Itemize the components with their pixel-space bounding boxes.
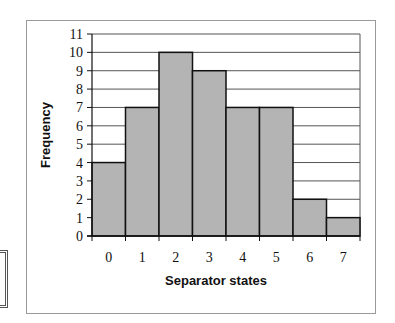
histogram-bar — [126, 107, 160, 236]
x-tick-label: 5 — [273, 250, 280, 265]
x-tick-label: 0 — [105, 250, 112, 265]
y-tick-label: 11 — [70, 27, 83, 42]
y-tick-label: 0 — [76, 229, 83, 244]
y-tick-label: 9 — [76, 64, 83, 79]
x-tick-label: 1 — [139, 250, 146, 265]
y-tick-label: 3 — [76, 174, 83, 189]
x-tick-label: 6 — [306, 250, 313, 265]
x-tick-label: 7 — [340, 250, 347, 265]
histogram-bar — [327, 218, 361, 236]
histogram-bar — [159, 52, 193, 236]
histogram-bar — [293, 199, 327, 236]
x-tick-labels: 01234567 — [105, 250, 347, 265]
x-tick-label: 4 — [239, 250, 246, 265]
y-tick-label: 5 — [76, 137, 83, 152]
histogram-bar — [92, 163, 126, 236]
y-axis-title: Frequency — [38, 101, 53, 168]
y-tick-label: 1 — [76, 211, 83, 226]
y-tick-labels: 01234567891011 — [69, 27, 83, 244]
y-tick-label: 8 — [76, 82, 83, 97]
y-tick-label: 4 — [76, 156, 83, 171]
x-tick-label: 3 — [206, 250, 213, 265]
y-tick-label: 10 — [69, 45, 83, 60]
x-tick-label: 2 — [172, 250, 179, 265]
histogram-bar — [193, 71, 227, 236]
x-axis-title: Separator states — [165, 273, 267, 288]
y-tick-label: 6 — [76, 119, 83, 134]
y-tick-label: 7 — [76, 100, 83, 115]
histogram-bar — [226, 107, 260, 236]
histogram-chart: 01234567891011 01234567 Separator states… — [0, 0, 395, 323]
histogram-bar — [260, 107, 294, 236]
y-tick-label: 2 — [76, 192, 83, 207]
